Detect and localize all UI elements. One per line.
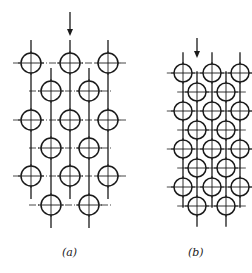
down-arrow-icon xyxy=(67,29,73,36)
tube-bank-diagram xyxy=(0,0,252,273)
panel-a-label: (a) xyxy=(62,246,77,259)
down-arrow-icon xyxy=(194,51,200,58)
panel-b-label: (b) xyxy=(188,246,204,259)
